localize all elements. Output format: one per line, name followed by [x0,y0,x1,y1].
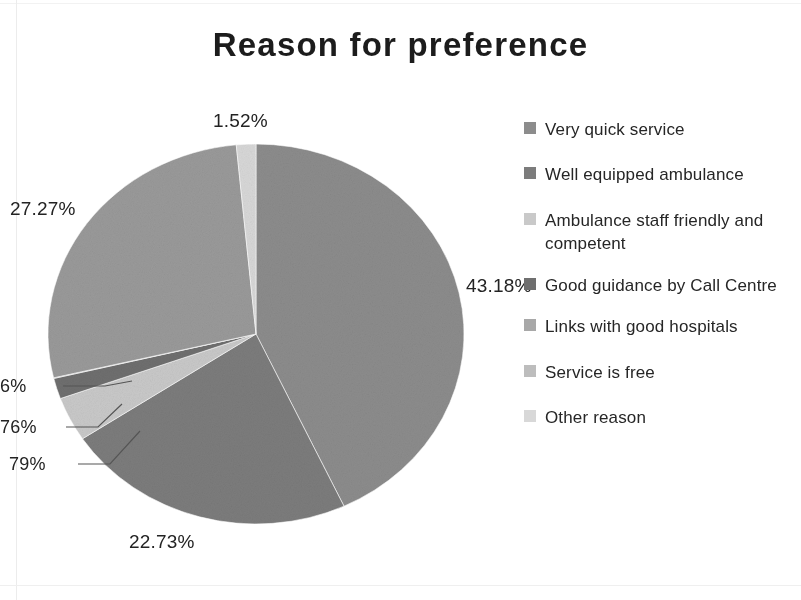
legend-swatch-icon [524,278,536,290]
data-label-other-reason: 1.52% [213,110,268,132]
legend-swatch-icon [524,365,536,377]
data-label-service-is-free: 27.27% [10,198,76,220]
legend-swatch-icon [524,319,536,331]
legend-swatch-icon [524,167,536,179]
legend-item-service-is-free[interactable]: Service is free [524,361,796,384]
pie-chart-figure: Reason for preference [0,0,801,600]
legend-item-label: Well equipped ambulance [545,163,744,186]
legend-swatch-icon [524,410,536,422]
legend-item-other-reason[interactable]: Other reason [524,406,796,429]
legend-swatch-icon [524,122,536,134]
chart-title: Reason for preference [0,26,801,64]
pie-svg [47,140,465,528]
legend-item-good-guidance-call-centre[interactable]: Good guidance by Call Centre [524,274,796,297]
legend-item-label: Other reason [545,406,646,429]
legend-item-links-good-hospitals[interactable]: Links with good hospitals [524,315,796,338]
data-label-very-quick-service: 43.18% [466,275,532,297]
data-label-well-equipped: 22.73% [129,531,195,553]
data-label-good-guidance: 76% [0,417,37,438]
legend-item-very-quick-service[interactable]: Very quick service [524,118,796,141]
scan-edge-left [16,0,17,600]
legend-item-label: Service is free [545,361,655,384]
legend-item-label: Very quick service [545,118,685,141]
scan-edge-top [0,3,801,4]
legend: Very quick service Well equipped ambulan… [524,118,796,452]
data-label-links-hospitals: 6% [0,376,26,397]
legend-item-well-equipped-ambulance[interactable]: Well equipped ambulance [524,163,796,186]
pie-slices-group [48,144,464,524]
legend-item-label: Ambulance staff friendly and competent [545,209,796,256]
legend-item-label: Good guidance by Call Centre [545,274,777,297]
pie-graphic [47,140,465,528]
data-label-ambulance-staff: 79% [9,454,46,475]
legend-item-ambulance-staff-friendly[interactable]: Ambulance staff friendly and competent [524,209,796,256]
scan-edge-bottom [0,585,801,586]
legend-item-label: Links with good hospitals [545,315,738,338]
legend-swatch-icon [524,213,536,225]
